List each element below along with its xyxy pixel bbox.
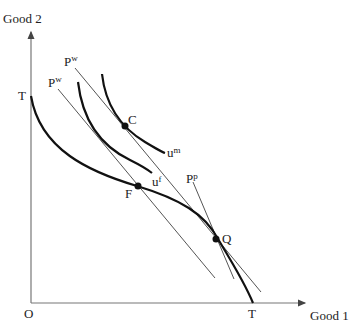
point-f-label: F: [125, 186, 132, 201]
trade-diagram: Good 2 Good 1 O T T C F Q Pw Pw Pp um uf: [0, 0, 355, 336]
world-price-label-lower: Pw: [48, 74, 62, 90]
point-q-dot: [213, 236, 220, 243]
indifference-label-uf: uf: [152, 174, 162, 189]
point-f-dot: [135, 183, 142, 190]
y-axis-label: Good 2: [3, 11, 42, 26]
world-price-label-upper: Pw: [64, 53, 78, 69]
ppf-x-intercept-label: T: [248, 306, 256, 321]
world-price-line-upper: [75, 68, 261, 292]
point-c-label: C: [128, 112, 137, 127]
protected-price-label: Pp: [186, 171, 198, 186]
ppf-y-intercept-label: T: [18, 88, 26, 103]
ppf-curve: [31, 96, 253, 303]
origin-label: O: [24, 306, 33, 321]
indifference-curve-uf: [78, 82, 152, 173]
indifference-label-um: um: [167, 145, 181, 160]
point-q-label: Q: [222, 231, 232, 246]
x-axis-label: Good 1: [310, 308, 349, 323]
